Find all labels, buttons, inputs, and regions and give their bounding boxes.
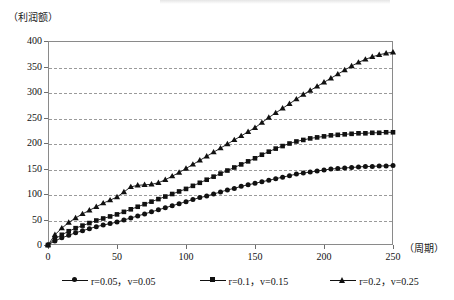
y-tick-label: 150 — [14, 163, 42, 174]
legend-label: r=0.05，v=0.05 — [91, 273, 156, 288]
legend-item[interactable]: r=0.05，v=0.05 — [62, 273, 156, 288]
legend-item[interactable]: r=0.2，v=0.25 — [330, 273, 419, 288]
y-tick-mark — [44, 118, 48, 119]
gridline — [49, 221, 392, 222]
x-tick-label: 0 — [28, 251, 68, 262]
y-tick-label: 200 — [14, 137, 42, 148]
gridline — [49, 68, 392, 69]
y-tick-label: 50 — [14, 214, 42, 225]
y-tick-mark — [44, 143, 48, 144]
circle-marker-icon — [62, 275, 88, 285]
x-tick-mark — [186, 245, 187, 249]
chart-root: （利润额） （周期） 050100150200250300350400 0501… — [0, 0, 454, 300]
x-tick-mark — [48, 245, 49, 249]
square-marker-icon — [200, 275, 226, 285]
y-tick-label: 250 — [14, 112, 42, 123]
legend-marker — [72, 277, 77, 282]
x-tick-label: 150 — [235, 251, 275, 262]
y-tick-label: 300 — [14, 86, 42, 97]
y-tick-mark — [44, 220, 48, 221]
y-tick-label: 400 — [14, 35, 42, 46]
y-axis-label: （利润额） — [8, 9, 58, 24]
x-tick-label: 200 — [304, 251, 344, 262]
y-tick-mark — [44, 67, 48, 68]
legend-item[interactable]: r=0.1，v=0.15 — [200, 273, 289, 288]
x-tick-mark — [255, 245, 256, 249]
x-tick-label: 50 — [97, 251, 137, 262]
gridline — [49, 93, 392, 94]
plot-area — [48, 41, 393, 245]
cropped-title-artifact — [160, 0, 390, 4]
x-tick-mark — [393, 245, 394, 249]
chart-legend: r=0.05，v=0.05r=0.1，v=0.15r=0.2，v=0.25 — [48, 272, 408, 288]
y-tick-label: 100 — [14, 188, 42, 199]
legend-label: r=0.2，v=0.25 — [359, 273, 419, 288]
y-tick-label: 350 — [14, 61, 42, 72]
x-tick-label: 250 — [373, 251, 413, 262]
y-tick-mark — [44, 194, 48, 195]
gridline — [49, 119, 392, 120]
gridline — [49, 170, 392, 171]
triangle-marker-icon — [330, 275, 356, 285]
gridline — [49, 144, 392, 145]
x-tick-mark — [117, 245, 118, 249]
legend-marker — [339, 277, 345, 283]
legend-label: r=0.1，v=0.15 — [229, 273, 289, 288]
x-tick-label: 100 — [166, 251, 206, 262]
y-tick-label: 0 — [14, 239, 42, 250]
y-tick-mark — [44, 41, 48, 42]
y-tick-mark — [44, 92, 48, 93]
gridline — [49, 195, 392, 196]
legend-marker — [210, 277, 215, 282]
y-tick-mark — [44, 169, 48, 170]
x-tick-mark — [324, 245, 325, 249]
